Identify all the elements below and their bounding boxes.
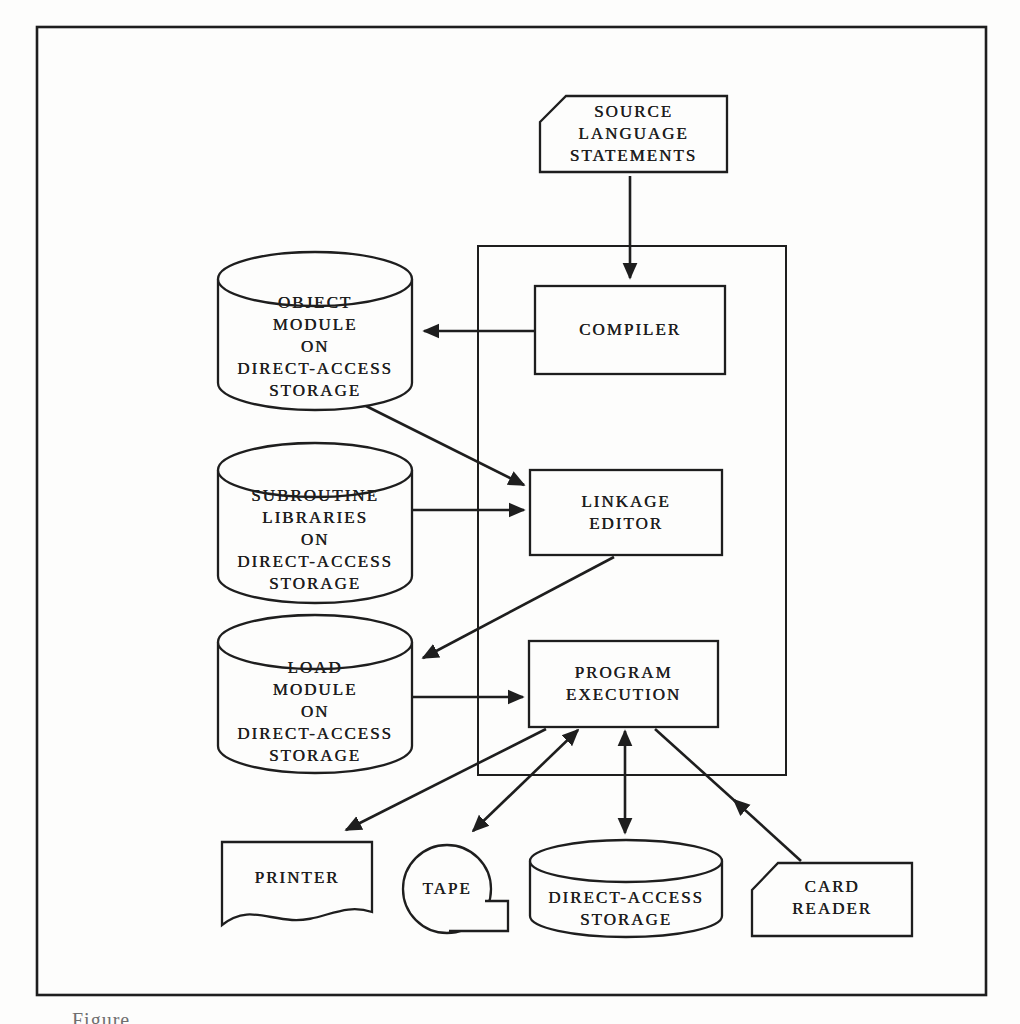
flow-diagram [0, 0, 1020, 1024]
program-execution-box-shape [529, 641, 718, 727]
subroutine-libraries-drum-top [218, 443, 412, 497]
source-card-shape [540, 96, 727, 172]
linkage-editor-box-shape [530, 470, 722, 555]
node-shapes [218, 96, 912, 937]
figure-caption-partial: Figure [72, 1009, 130, 1024]
edge-card-reader-to-program-execution-arrow [734, 800, 801, 861]
edge-card-reader-to-program-execution-tail [655, 729, 736, 802]
compiler-box-shape [535, 286, 725, 374]
direct-access-storage-drum-top [530, 840, 722, 882]
figure-page: SOURCE LANGUAGE STATEMENTS COMPILER OBJE… [0, 0, 1020, 1024]
object-module-drum-top [218, 252, 412, 306]
printer-document-shape [222, 842, 372, 925]
edge-program-execution-to-tape [473, 730, 578, 831]
load-module-drum-top [218, 615, 412, 669]
card-reader-shape [752, 863, 912, 936]
